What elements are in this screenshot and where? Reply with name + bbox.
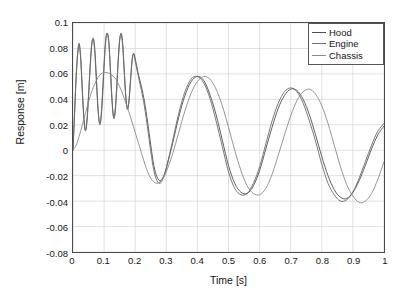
y-axis-tick-labels: 0.10.080.060.040.020-0.02-0.04-0.06-0.08 <box>0 22 68 253</box>
x-tick-label: 1 <box>382 255 387 266</box>
legend-label-engine: Engine <box>329 38 359 49</box>
chart-figure: 0.10.080.060.040.020-0.02-0.04-0.06-0.08… <box>0 0 401 304</box>
legend-swatch-hood <box>312 32 326 33</box>
legend-label-hood: Hood <box>329 27 352 38</box>
x-tick-label: 0.4 <box>191 255 204 266</box>
legend-swatch-chassis <box>312 55 326 56</box>
x-tick-label: 0.1 <box>97 255 110 266</box>
x-tick-label: 0.3 <box>159 255 172 266</box>
legend-item-engine: Engine <box>312 38 380 49</box>
y-tick-label: -0.06 <box>4 222 68 233</box>
x-tick-label: 0.5 <box>222 255 235 266</box>
x-tick-label: 0.8 <box>316 255 329 266</box>
x-tick-label: 0 <box>69 255 74 266</box>
y-tick-label: -0.08 <box>4 248 68 259</box>
y-tick-label: 0.1 <box>4 17 68 28</box>
x-tick-label: 0.7 <box>284 255 297 266</box>
x-tick-label: 0.2 <box>128 255 141 266</box>
x-tick-label: 0.9 <box>347 255 360 266</box>
x-axis-label: Time [s] <box>72 274 385 286</box>
legend-swatch-engine <box>312 43 326 44</box>
x-axis-tick-labels: 00.10.20.30.40.50.60.70.80.91 <box>72 255 385 271</box>
series-chassis <box>73 72 384 202</box>
y-tick-label: -0.02 <box>4 171 68 182</box>
y-axis-label: Response [m] <box>14 52 26 172</box>
legend-label-chassis: Chassis <box>329 50 363 61</box>
legend-item-hood: Hood <box>312 27 380 38</box>
y-tick-label: -0.04 <box>4 196 68 207</box>
x-tick-label: 0.6 <box>253 255 266 266</box>
chart-legend: Hood Engine Chassis <box>308 23 384 65</box>
legend-item-chassis: Chassis <box>312 50 380 61</box>
